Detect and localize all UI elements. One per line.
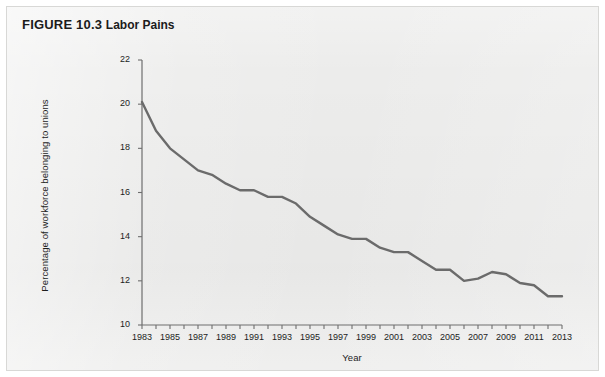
figure-root: FIGURE 10.3 Labor Pains Percentage of wo… — [0, 0, 605, 377]
figure-number: FIGURE 10.3 — [22, 17, 102, 32]
figure-panel — [6, 6, 599, 371]
figure-title-text: Labor Pains — [106, 18, 175, 32]
figure-caption: FIGURE 10.3 Labor Pains — [22, 17, 175, 33]
paper-texture-overlay — [7, 7, 598, 370]
